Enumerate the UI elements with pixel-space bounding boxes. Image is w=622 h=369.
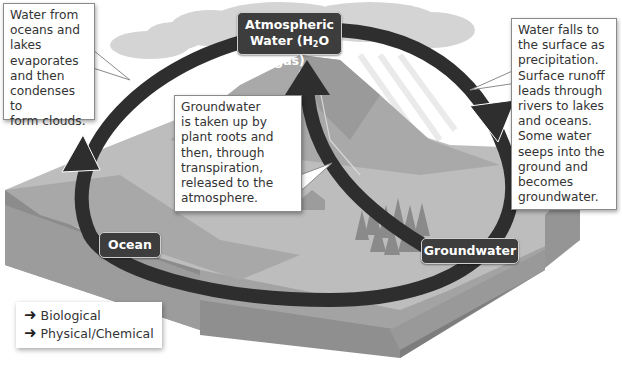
callout-line: condenses to [10,84,88,114]
callout-line: then, through [181,146,295,161]
node-atmospheric-line1: Atmospheric [238,17,341,33]
callout-line: rivers to lakes [518,99,610,114]
callout-line: precipitation. [518,53,610,68]
callout-line: becomes [518,175,610,190]
callout-line: Water falls to [518,23,610,38]
callout-line: oceans and [10,23,88,38]
callout-line: transpiration, [181,161,295,176]
legend-item-biological: ➜ Biological [24,306,162,324]
callout-line: released to the [181,176,295,191]
callout-line: and oceans. [518,114,610,129]
callout-line: and then [10,69,88,84]
callout-line: form clouds. [10,114,88,129]
callout-line: ground and [518,160,610,175]
callout-line: is taken up by [181,115,295,130]
node-ocean: Ocean [99,232,161,258]
node-groundwater-label: Groundwater [424,243,516,258]
legend-item-physical-chemical: ➜ Physical/Chemical [24,324,162,342]
callout-line: Water from [10,8,88,23]
callout-line: lakes [10,38,88,53]
callout-line: seeps into the [518,145,610,160]
callout-evaporation: Water from oceans and lakes evaporates a… [3,3,95,120]
node-ocean-label: Ocean [108,237,152,252]
callout-precipitation: Water falls to the surface as precipitat… [511,18,617,210]
callout-line: Groundwater [181,100,295,115]
callout-line: atmosphere. [181,191,295,206]
callout-line: the surface as [518,38,610,53]
legend: ➜ Biological ➜ Physical/Chemical [16,302,162,348]
arrow-right-icon: ➜ [24,324,37,342]
node-atmospheric-line2: Water (H2O gas) [238,33,341,69]
callout-line: plant roots and [181,130,295,145]
arrowhead-down-right [470,100,515,142]
arrow-right-icon: ➜ [24,306,37,324]
node-atmospheric-water: Atmospheric Water (H2O gas) [237,12,342,55]
legend-label: Physical/Chemical [41,326,154,341]
callout-line: Some water [518,129,610,144]
callout-line: leads through [518,84,610,99]
callout-line: groundwater. [518,190,610,205]
callout-line: Surface runoff [518,69,610,84]
legend-label: Biological [41,308,101,323]
callout-line: evaporates [10,54,88,69]
node-groundwater: Groundwater [421,238,519,264]
callout-transpiration: Groundwater is taken up by plant roots a… [174,95,302,212]
